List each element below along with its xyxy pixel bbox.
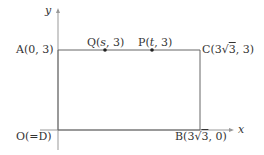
label-C: C(3√3, 3) [202,44,254,55]
label-P: P(t, 3) [138,37,172,48]
diagram-canvas: y x A(0, 3) Q(s, 3) P(t, 3) C(3√3, 3) O(… [0,0,264,155]
y-axis-label: y [45,5,51,16]
x-axis-arrow-icon [229,128,234,132]
y-axis-arrow-icon [56,8,60,13]
label-O: O(=D) [16,131,52,142]
label-A: A(0, 3) [16,44,54,55]
x-axis-label: x [238,124,244,135]
label-B: B(3√3, 0) [175,131,227,142]
label-Q: Q(s, 3) [87,37,124,48]
